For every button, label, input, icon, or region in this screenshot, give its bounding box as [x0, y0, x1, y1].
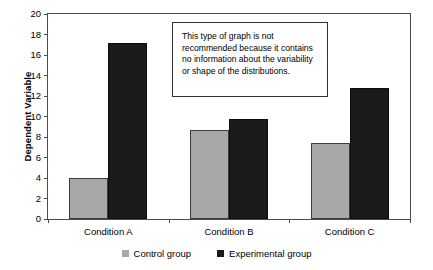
- y-axis-tick-label: 6: [11, 152, 41, 163]
- x-axis-label: Condition A: [84, 226, 133, 237]
- annotation-text: This type of graph is not recommended be…: [182, 31, 318, 77]
- y-axis-tick-mark: [44, 116, 48, 117]
- y-axis-tick-label: 18: [11, 29, 41, 40]
- y-axis-tick-mark: [44, 34, 48, 35]
- bar-experimental: [108, 43, 147, 219]
- bar-chart-figure: Dependent Variable 02468101214161820 Con…: [0, 0, 433, 270]
- y-axis-tick-mark: [44, 55, 48, 56]
- y-axis-tick-mark: [44, 157, 48, 158]
- y-axis-tick-label: 8: [11, 131, 41, 142]
- y-axis-tick-mark: [44, 137, 48, 138]
- y-axis-tick-label: 0: [11, 213, 41, 224]
- y-axis-tick-mark: [44, 178, 48, 179]
- x-axis-tick: [410, 219, 411, 223]
- x-axis-label: Condition B: [204, 226, 253, 237]
- legend-item: Control group: [122, 248, 192, 259]
- legend-label: Control group: [134, 248, 192, 259]
- x-axis-label: Condition C: [325, 226, 375, 237]
- legend-label: Experimental group: [229, 248, 311, 259]
- bar-control: [190, 130, 229, 219]
- x-axis-tick: [48, 219, 49, 223]
- chart-legend: Control groupExperimental group: [0, 248, 433, 259]
- bar-experimental: [229, 119, 268, 219]
- bar-control: [69, 178, 108, 219]
- y-axis-tick-mark: [44, 198, 48, 199]
- y-axis-tick-label: 20: [11, 8, 41, 19]
- y-axis-tick-mark: [44, 14, 48, 15]
- legend-swatch-icon: [122, 250, 129, 257]
- y-axis-tick-label: 16: [11, 49, 41, 60]
- y-axis-tick-label: 4: [11, 172, 41, 183]
- y-axis-tick-label: 12: [11, 90, 41, 101]
- y-axis-tick-mark: [44, 75, 48, 76]
- bar-control: [311, 143, 350, 219]
- y-axis-tick-label: 10: [11, 111, 41, 122]
- bar-experimental: [350, 88, 389, 219]
- y-axis-tick-mark: [44, 96, 48, 97]
- legend-swatch-icon: [217, 250, 224, 257]
- x-axis-tick: [169, 219, 170, 223]
- annotation-box: This type of graph is not recommended be…: [172, 22, 328, 97]
- y-axis-tick-label: 2: [11, 193, 41, 204]
- x-axis-tick: [289, 219, 290, 223]
- legend-item: Experimental group: [217, 248, 311, 259]
- y-axis-tick-label: 14: [11, 70, 41, 81]
